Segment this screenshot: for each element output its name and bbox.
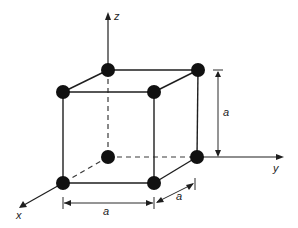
edge-top-right: [154, 70, 198, 92]
atom-top-back-right: [191, 63, 205, 77]
atom-bottom-front-right: [147, 176, 161, 190]
x-axis-label: x: [15, 209, 22, 221]
horizontal-dimension-label: a: [103, 205, 109, 217]
labels: z y x a a a: [15, 10, 280, 221]
hidden-edge-left-bottom: [63, 157, 108, 183]
y-axis-arrow-icon: [276, 154, 284, 160]
atoms: [56, 63, 205, 190]
atom-top-front-left: [56, 85, 70, 99]
depth-dimension-start-arrow-icon: [156, 197, 164, 203]
z-axis-arrow-icon: [105, 12, 111, 20]
vertical-dimension: [213, 70, 223, 157]
vertical-dimension-up-arrow-icon: [215, 71, 221, 77]
atom-top-back-left: [101, 63, 115, 77]
vertical-dimension-down-arrow-icon: [215, 150, 221, 157]
cubic-lattice-diagram: z y x a a a: [0, 0, 298, 228]
hidden-edges: [63, 70, 197, 183]
atom-top-front-right: [147, 85, 161, 99]
edge-bottom-right: [154, 157, 197, 183]
visible-edges: [63, 70, 198, 183]
depth-dimension-label: a: [176, 190, 182, 202]
depth-dimension-end-arrow-icon: [186, 183, 194, 190]
horizontal-dimension-left-arrow-icon: [64, 200, 71, 206]
horizontal-dimension-right-arrow-icon: [146, 200, 153, 206]
vertical-dimension-label: a: [223, 106, 229, 118]
edge-top-left: [63, 70, 108, 92]
atom-bottom-front-left: [56, 176, 70, 190]
atom-bottom-back-left: [101, 150, 115, 164]
atom-bottom-back-right: [190, 150, 204, 164]
z-axis-label: z: [113, 10, 120, 22]
y-axis-label: y: [272, 162, 280, 174]
edge-back-right-vertical: [197, 70, 198, 157]
